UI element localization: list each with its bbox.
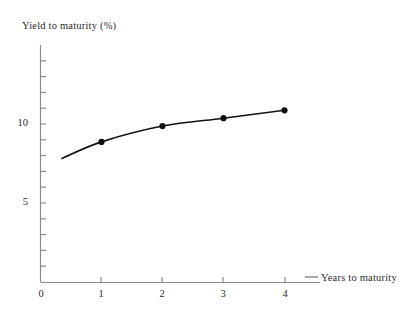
chart-container: Yield to maturity (%) Years to maturity … <box>0 0 407 315</box>
y-axis-ticks <box>41 61 47 266</box>
x-tick-label-0: 0 <box>31 288 51 299</box>
data-point <box>281 107 287 113</box>
yield-curve-path <box>62 110 285 158</box>
x-tick-label-3: 3 <box>213 288 233 299</box>
data-point <box>159 123 165 129</box>
x-axis-ticks <box>101 277 285 283</box>
yield-curve-plot <box>0 0 407 315</box>
x-tick-label-1: 1 <box>91 288 111 299</box>
x-tick-label-2: 2 <box>152 288 172 299</box>
x-axis-title: Years to maturity <box>321 272 397 283</box>
y-tick-label-10: 10 <box>4 117 28 128</box>
x-tick-label-4: 4 <box>275 288 295 299</box>
y-tick-label-5: 5 <box>4 196 28 207</box>
y-axis-title: Yield to maturity (%) <box>22 20 116 31</box>
data-point <box>98 139 104 145</box>
data-point <box>220 115 226 121</box>
